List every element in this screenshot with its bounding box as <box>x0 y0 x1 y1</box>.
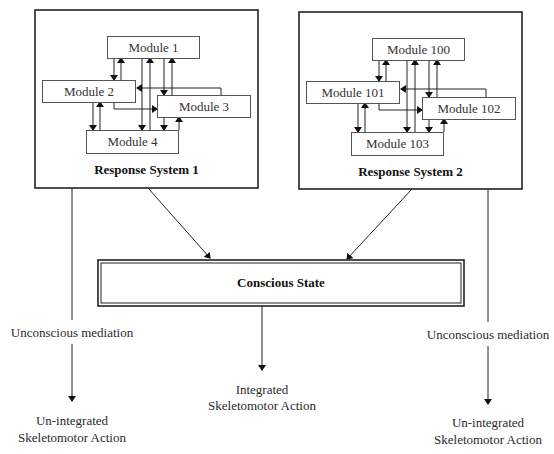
module-3: Module 3 <box>157 95 251 118</box>
right-unconscious-mediation-label: Unconscious mediation <box>410 327 554 343</box>
response-system-1-title: Response System 1 <box>35 162 258 178</box>
right-unintegrated-action-line1: Un-integrated <box>412 415 554 431</box>
module-1: Module 1 <box>107 36 200 59</box>
left-unintegrated-action-line1: Un-integrated <box>0 413 144 429</box>
module-101: Module 101 <box>306 81 400 104</box>
integrated-action-line1: Integrated <box>187 382 337 398</box>
conscious-state-label: Conscious State <box>98 275 464 291</box>
module-2: Module 2 <box>42 80 136 103</box>
left-unintegrated-action-line2: Skeletomotor Action <box>0 430 144 446</box>
module-102: Module 102 <box>422 97 516 120</box>
rs2-to-conscious-arrow <box>347 189 412 259</box>
right-unintegrated-action-line2: Skeletomotor Action <box>412 432 554 448</box>
left-unconscious-mediation-label: Unconscious mediation <box>0 325 144 341</box>
module-4: Module 4 <box>86 130 179 154</box>
integrated-action-line2: Skeletomotor Action <box>187 398 337 414</box>
response-system-2-title: Response System 2 <box>299 164 522 180</box>
rs1-to-conscious-arrow <box>148 188 210 258</box>
module-100: Module 100 <box>372 38 465 61</box>
module-103: Module 103 <box>351 132 444 156</box>
